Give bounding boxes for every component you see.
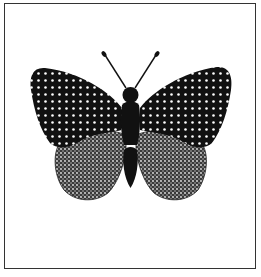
butterfly-head [123, 87, 139, 103]
butterfly-abdomen [123, 147, 137, 188]
left-antenna [105, 55, 126, 88]
right-antenna [135, 55, 156, 88]
butterfly-illustration [0, 0, 261, 277]
butterfly-thorax [121, 101, 140, 145]
